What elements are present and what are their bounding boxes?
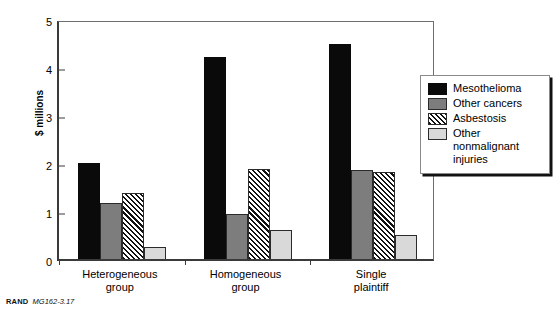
bars-layer [59,22,433,259]
chart-legend: MesotheliomaOther cancersAsbestosisOther… [420,75,550,174]
y-tick-label: 2 [46,161,52,172]
bar [144,247,166,259]
y-tick-mark [59,166,65,167]
bar [395,235,417,259]
bar [248,169,270,259]
figure-number-label: MG162-3.17 [33,297,75,306]
rand-brand-label: RAND [6,297,28,306]
legend-item-label: Asbestosis [453,112,506,125]
x-category-label: Homogeneous group [183,268,309,294]
bar [78,163,100,259]
legend-item-label: Other nonmalignant injuries [453,127,519,166]
y-tick-mark [59,70,65,71]
legend-item: Other nonmalignant injuries [428,127,543,166]
plot-area: 012345 [57,21,434,261]
bar [373,172,395,259]
x-axis-separator-tick [59,259,60,265]
figure-source-note: RAND MG162-3.17 [6,297,74,306]
x-axis-separator-tick [310,259,311,265]
bar [329,44,351,259]
y-tick-mark [59,214,65,215]
bar [270,230,292,259]
figure-bar-chart: $ millions 012345 Heterogeneous groupHom… [0,0,557,316]
bar [351,170,373,259]
y-tick-label: 3 [46,113,52,124]
bar [226,214,248,259]
x-axis-separator-tick [185,259,186,265]
x-category-label: Single plaintiff [308,268,434,294]
bar [122,193,144,259]
legend-item: Asbestosis [428,112,543,125]
dark-gray-swatch-icon [428,98,447,110]
y-tick-label: 0 [46,257,52,268]
bar [204,57,226,259]
light-gray-swatch-icon [428,128,447,140]
bar [100,203,122,259]
y-tick-mark [59,118,65,119]
y-tick-label: 1 [46,209,52,220]
black-swatch-icon [428,83,447,95]
y-tick-label: 4 [46,65,52,76]
legend-item-label: Other cancers [453,97,522,110]
legend-item: Other cancers [428,97,543,110]
legend-item-label: Mesothelioma [453,82,521,95]
y-tick-label: 5 [46,17,52,28]
legend-item: Mesothelioma [428,82,543,95]
hatched-swatch-icon [428,113,447,125]
x-category-label: Heterogeneous group [57,268,183,294]
